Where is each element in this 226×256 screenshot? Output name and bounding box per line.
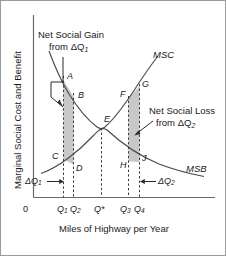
point-label-g: G xyxy=(142,79,149,89)
point-label-d: D xyxy=(76,163,83,173)
x-tick-q1-text: Q xyxy=(57,204,64,214)
x-tick-q2-text: Q xyxy=(70,204,77,214)
x-tick-label-q4: Q4 xyxy=(134,204,145,215)
point-label-j: J xyxy=(142,153,147,163)
delta-q2-label: ΔQ2 xyxy=(158,176,175,187)
x-tick-q3-sub: 3 xyxy=(127,207,131,214)
net-social-gain-delta: from ΔQ xyxy=(49,41,84,52)
origin-label: 0 xyxy=(23,204,28,214)
delta-q2-text: ΔQ xyxy=(158,176,171,186)
net-social-gain-delta-sub: 1 xyxy=(84,46,88,53)
x-tick-q2-sub: 2 xyxy=(77,207,81,214)
x-tick-label-q3: Q3 xyxy=(120,204,131,215)
x-tick-q4-sub: 4 xyxy=(141,207,145,214)
point-label-c: C xyxy=(52,151,59,161)
point-label-e: E xyxy=(104,114,110,124)
msb-curve-label: MSB xyxy=(186,164,207,175)
net-social-loss-label-line1: Net Social Loss xyxy=(149,106,215,117)
x-tick-label-qstar: Q* xyxy=(94,204,105,214)
net-social-gain-label-line2: from ΔQ1 xyxy=(49,42,88,53)
x-tick-q3-text: Q xyxy=(120,204,127,214)
point-label-h: H xyxy=(120,160,127,170)
x-tick-label-q1: Q1 xyxy=(57,204,68,215)
msc-curve-label: MSC xyxy=(153,50,174,61)
net-social-gain-leader-arrow xyxy=(51,57,63,107)
y-axis-title: Marginal Social Cost and Benefit xyxy=(12,51,23,189)
x-axis-title: Miles of Highway per Year xyxy=(59,224,169,235)
x-tick-q1-sub: 1 xyxy=(64,207,68,214)
point-label-f: F xyxy=(120,89,126,99)
delta-q2-sub: 2 xyxy=(171,179,175,186)
delta-q2-arrowhead xyxy=(140,179,145,184)
net-social-gain-label-line1: Net Social Gain xyxy=(38,30,104,41)
x-tick-label-q2: Q2 xyxy=(70,204,81,215)
x-tick-q4-text: Q xyxy=(134,204,141,214)
point-label-a: A xyxy=(67,71,73,81)
delta-q1-sub: 1 xyxy=(38,179,42,186)
net-social-loss-delta-sub: 2 xyxy=(191,122,195,129)
figure-container: Marginal Social Cost and Benefit Net Soc… xyxy=(0,0,226,256)
delta-q1-label: ΔQ1 xyxy=(25,176,42,187)
net-social-loss-label-line2: from ΔQ2 xyxy=(156,118,195,129)
net-social-loss-delta: from ΔQ xyxy=(156,117,191,128)
delta-q1-text: ΔQ xyxy=(25,176,38,186)
point-label-b: B xyxy=(78,90,84,100)
